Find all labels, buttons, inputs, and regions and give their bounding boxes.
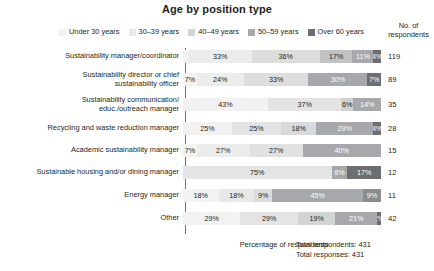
bar-segment: 33% [189,50,252,63]
bar-segment-value: 7% [369,75,379,84]
bar-segment: 40% [303,144,381,157]
respondents-value: 42 [381,214,432,223]
bar-segment-value: 14% [360,100,374,109]
row-label-line1: Sustainability communication/ [82,95,179,104]
bar-row: Sustainability communication/educ./outre… [0,96,434,113]
stacked-bar: 29%29%19%21%2% [183,212,381,225]
bar-segment: 43% [183,98,268,111]
bar-segment: 37% [268,98,341,111]
bar-segment-value: 21% [349,214,363,223]
bar-segment-value: 37% [298,100,312,109]
bar-segment: 25% [183,122,232,135]
bar-segment-value: 25% [249,124,263,133]
bar-segment: 8% [332,166,348,179]
bar-segment-value: 45% [310,191,324,200]
respondents-column-header-line2: respondents [383,31,434,40]
bar-segment: 7% [183,73,197,86]
respondents-value: 11 [381,191,432,200]
bar-segment-value: 33% [269,75,283,84]
legend-item-0: Under 30 years [59,28,120,36]
bar-segment: 6% [341,98,353,111]
legend-item-3: 50–59 years [248,28,299,36]
bar-segment-value: 27% [216,146,230,155]
bar-segment: 27% [197,144,250,157]
stacked-bar: 33%36%17%11%4% [183,50,381,63]
row-label-0: Sustainability manager/coordinator [0,52,183,60]
bar-segment: 21% [335,212,377,225]
bar-segment-value: 6% [342,100,352,109]
respondents-value: 119 [381,52,432,61]
legend-label-0: Under 30 years [69,28,120,36]
legend-label-2: 40–49 years [198,28,239,36]
legend-swatch-icon-1 [129,29,136,36]
legend-item-1: 30–39 years [129,28,180,36]
legend-item-2: 40–49 years [188,28,239,36]
bar-row: Energy manager18%18%9%45%9%11 [0,187,434,204]
bar-segment-value: 29% [262,214,276,223]
bar-segment: 19% [298,212,336,225]
bar-segment-value: 24% [213,75,227,84]
total-respondents-text: Total respondents: 431 [296,240,434,250]
bar-segment: 25% [232,122,281,135]
bar-segment-value: 30% [331,75,345,84]
stacked-bar: 75%8%17% [183,166,381,179]
row-label-line2: educ./outreach manager [0,105,179,113]
bar-segment-value: 7% [185,146,195,155]
bar-segment-value: 36% [279,52,293,61]
bar-segment: 36% [252,50,321,63]
bar-segment: 18% [281,122,316,135]
bar-segment: 14% [353,98,381,111]
bar-segment-value: 19% [309,214,323,223]
respondents-value: 15 [381,146,432,155]
plot-area: Sustainability manager/coordinator33%36%… [0,46,434,236]
bar-segment-value: 18% [194,191,208,200]
bar-segment-value: 7% [185,75,195,84]
row-label-1: Sustainability director or chiefsustaina… [0,71,183,88]
stacked-bar: 43%37%6%14% [183,98,381,111]
bar-segment-value: 4% [373,124,381,133]
bar-segment: 30% [308,73,367,86]
row-label-4: Academic sustainability manager [0,146,183,154]
bar-segment: 18% [219,189,255,202]
bar-segment-value: 17% [329,52,343,61]
row-label-line1: Recycling and waste reduction manager [48,123,179,132]
bar-segment-value: 17% [357,168,371,177]
bar-row: Sustainable housing and/or dining manage… [0,164,434,181]
bar-segment: 4% [373,50,381,63]
legend-swatch-icon-4 [308,29,315,36]
bar-segment-value: 27% [269,146,283,155]
bar-segment-value: 18% [291,124,305,133]
stacked-bar: 7%27%27%40% [183,144,381,157]
bar-segment: 7% [367,73,381,86]
chart-legend: Under 30 years30–39 years40–49 years50–5… [59,28,371,36]
legend-swatch-icon-3 [248,29,255,36]
bar-segment-value: 33% [213,52,227,61]
bar-segment: 18% [183,189,219,202]
bar-segment-value: 29% [338,124,352,133]
bar-segment: 29% [240,212,297,225]
bar-segment: 33% [244,73,309,86]
bar-segment: 7% [183,144,197,157]
bar-segment: 17% [347,166,381,179]
bar-segment-value: 29% [205,214,219,223]
stacked-bar: 18%18%9%45%9% [183,189,381,202]
bar-segment-value: 9% [258,191,268,200]
footer-totals: Total respondents: 431 Total responses: … [296,240,434,259]
bar-segment-value: 40% [335,146,349,155]
row-label-line1: Other [161,213,179,222]
legend-item-4: Over 60 years [308,28,364,36]
row-label-2: Sustainability communication/educ./outre… [0,96,183,113]
legend-swatch-icon-2 [188,29,195,36]
row-label-6: Energy manager [0,191,183,199]
bar-row: Recycling and waste reduction manager25%… [0,120,434,137]
row-label-5: Sustainable housing and/or dining manage… [0,168,183,176]
chart-title: Age by position type [0,3,434,15]
bar-segment-value: 75% [250,168,264,177]
bar-row: Other29%29%19%21%2%42 [0,210,434,227]
total-responses-text: Total responses: 431 [296,250,434,260]
bar-segment: 45% [272,189,363,202]
bar-row: Academic sustainability manager7%27%27%4… [0,142,434,159]
bar-segment-value: 2% [377,214,381,223]
row-label-line1: Sustainability director or chief [82,70,179,79]
respondents-value: 35 [381,100,432,109]
